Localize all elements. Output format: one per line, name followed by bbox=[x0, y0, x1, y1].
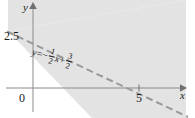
y-axis-label: y bbox=[23, 2, 28, 13]
x-axis-label: x bbox=[180, 90, 185, 101]
x-intercept-tick-label: 5 bbox=[136, 92, 142, 104]
y-intercept-tick-label: 2.5 bbox=[4, 30, 19, 42]
inequality-graph-figure: y x 0 2.5 5 y=−12x+32 bbox=[0, 0, 195, 118]
origin-label: 0 bbox=[19, 92, 25, 104]
